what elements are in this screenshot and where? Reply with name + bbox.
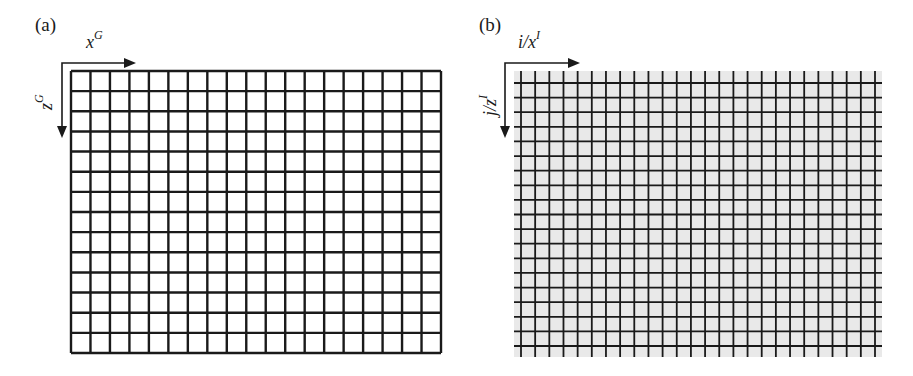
panel-b-graphic	[0, 0, 913, 376]
arrowhead-right-icon	[568, 58, 580, 68]
arrowhead-down-icon	[500, 126, 510, 138]
